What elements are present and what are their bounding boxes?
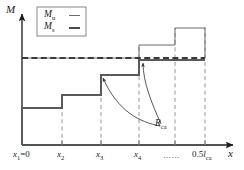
legend-sub-mu: u bbox=[52, 14, 55, 21]
tick-x2-sub: 2 bbox=[61, 154, 64, 161]
legend-sub-ms: s bbox=[52, 26, 55, 33]
legend-label-mu: Mu bbox=[44, 10, 55, 21]
moment-diagram-figure: M x Mu Ms x1=0 x2 x3 x4 …… 0.5lca Rca bbox=[0, 0, 244, 170]
ms-step-path bbox=[22, 60, 205, 145]
tick-x4-sub: 4 bbox=[138, 154, 141, 161]
ms-step-curve bbox=[22, 60, 205, 145]
x-axis-ticks bbox=[62, 140, 205, 145]
vertical-gridlines bbox=[62, 27, 205, 145]
tick-x3-sub: 3 bbox=[100, 154, 103, 161]
callout-label-rca: Rca bbox=[155, 119, 167, 130]
tick-label-x2: x2 bbox=[57, 150, 64, 161]
tick-lca-sub: ca bbox=[206, 154, 212, 161]
diagram-canvas bbox=[0, 0, 244, 170]
tick-label-half-lca: 0.5lca bbox=[192, 150, 212, 161]
tick-label-ellipsis: …… bbox=[163, 152, 180, 160]
y-axis-label: M bbox=[6, 4, 15, 15]
tick-label-x1: x1=0 bbox=[13, 150, 30, 161]
x-axis-label: x bbox=[228, 148, 233, 159]
tick-label-x4: x4 bbox=[134, 150, 141, 161]
legend-label-ms: Ms bbox=[44, 22, 54, 33]
legend-symbol-mu: M bbox=[44, 9, 52, 19]
legend-symbol-ms: M bbox=[44, 21, 52, 31]
callout-leaders bbox=[103, 63, 161, 126]
tick-label-x3: x3 bbox=[96, 150, 103, 161]
tick-x1-suffix: =0 bbox=[20, 149, 30, 159]
leader-arrow-to-rca-line bbox=[143, 63, 161, 124]
tick-lca-number: 0.5 bbox=[192, 149, 203, 159]
callout-sub: ca bbox=[161, 123, 167, 130]
